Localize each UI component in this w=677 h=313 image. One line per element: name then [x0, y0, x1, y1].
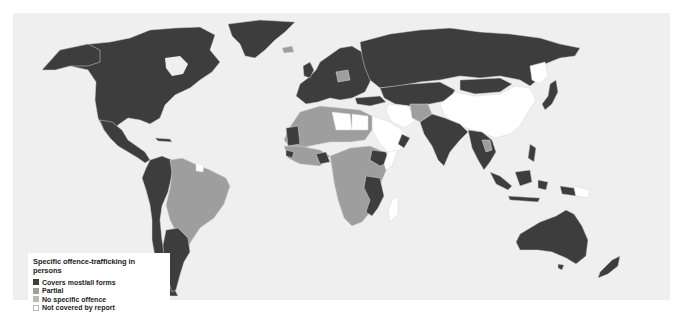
legend-item-not-covered: Not covered by report	[33, 304, 165, 313]
region-japan	[542, 80, 558, 110]
swatch-partial	[33, 288, 39, 294]
region-poland	[336, 70, 350, 82]
legend-label: No specific offence	[42, 296, 106, 303]
legend-title: Specific offence-trafficking in persons	[33, 257, 165, 275]
region-new-zealand	[598, 256, 620, 278]
map-legend: Specific offence-trafficking in persons …	[28, 253, 170, 313]
region-indonesia	[490, 170, 576, 202]
legend-item-no-specific: No specific offence	[33, 295, 165, 304]
legend-item-covers-most: Covers most/all forms	[33, 278, 165, 287]
legend-label: Not covered by report	[42, 304, 115, 311]
region-madagascar	[388, 196, 398, 222]
swatch-no-specific	[33, 296, 39, 302]
legend-item-partial: Partial	[33, 287, 165, 296]
legend-label: Partial	[42, 287, 63, 294]
swatch-covers-most	[33, 279, 39, 285]
region-australia	[516, 210, 588, 264]
region-north-america	[42, 27, 220, 135]
legend-label: Covers most/all forms	[42, 279, 116, 286]
region-central-america	[100, 120, 150, 163]
region-russia	[360, 28, 580, 88]
swatch-not-covered	[33, 305, 39, 311]
